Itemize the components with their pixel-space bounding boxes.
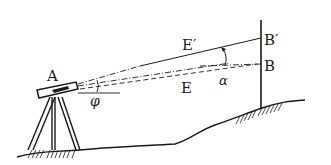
label-e: E xyxy=(181,79,192,97)
label-b-prime: B′ xyxy=(264,31,279,49)
ground-hatching-right xyxy=(236,103,282,124)
label-alpha: α xyxy=(219,73,228,88)
horizontal-line-to-b xyxy=(78,63,230,86)
phi-angle-arc xyxy=(97,80,99,92)
dashed-line-e xyxy=(80,64,257,89)
label-phi: φ xyxy=(90,93,100,109)
alpha-arrow-icon xyxy=(221,47,226,52)
label-a: A xyxy=(46,67,58,85)
leveling-diagram: A B′ B E′ E φ α xyxy=(0,0,331,165)
sight-line-to-b-prime xyxy=(140,38,261,66)
label-e-prime: E′ xyxy=(182,36,197,54)
sight-line-to-b-prime-near xyxy=(78,66,140,84)
tripod xyxy=(28,97,80,150)
label-b: B xyxy=(264,57,275,75)
